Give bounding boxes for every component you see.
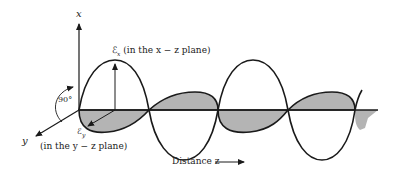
y-axis-label: y — [22, 136, 28, 146]
ex-subscript: x — [117, 50, 120, 57]
angle-label: 90° — [58, 96, 72, 104]
ey-wave-shaded — [79, 92, 378, 132]
ey-label: ℰy — [77, 128, 85, 138]
ex-plane-text: (in the x − z plane) — [123, 45, 210, 55]
x-axis-label: x — [76, 9, 82, 19]
ex-label: ℰx (in the x − z plane) — [112, 46, 211, 57]
right-angle-arc — [55, 87, 73, 122]
ey-subscript: y — [82, 131, 85, 138]
z-axis-label: Distance z — [172, 157, 219, 166]
y-axis — [36, 110, 79, 136]
ey-plane-text: (in the y − z plane) — [40, 142, 127, 151]
